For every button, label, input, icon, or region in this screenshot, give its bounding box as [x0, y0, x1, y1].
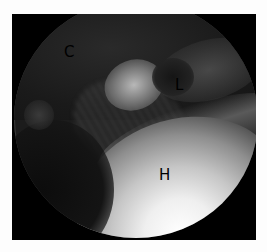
label-h: H — [159, 168, 170, 183]
label-l: L — [175, 78, 183, 93]
dark-recess — [152, 58, 194, 96]
image-frame: C L H — [12, 14, 256, 240]
label-c: C — [64, 45, 74, 60]
left-glow — [24, 100, 54, 130]
arthroscopic-field — [14, 14, 256, 238]
